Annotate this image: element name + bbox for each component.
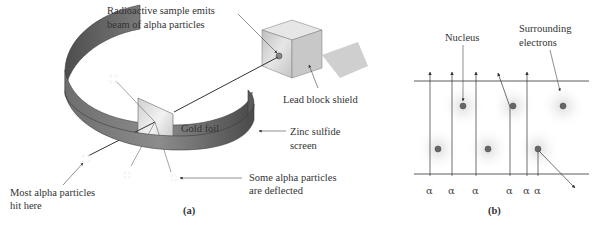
leader-electrons [550,50,560,91]
nucleus [435,146,441,152]
caption-b: (b) [488,205,501,217]
nucleus [460,103,466,109]
label-electrons-line2: electrons [519,37,557,48]
rutherford-diagram: Radioactive sample emits beam of alpha p… [0,0,609,226]
label-screen-line2: screen [290,140,318,151]
alpha-beam [174,57,278,112]
nucleus [535,146,541,152]
scintillation-flash-mid [121,169,133,181]
panel-b: Nucleus Surrounding electrons α α α α α … [414,23,589,217]
panel-a: Radioactive sample emits beam of alpha p… [10,5,368,217]
scintillation-flash-deflected [168,172,180,184]
nucleus [485,146,491,152]
leader-most [63,163,83,185]
caption-a: (a) [183,205,196,217]
alpha-label: α [472,185,479,196]
label-deflected-line2: are deflected [249,185,304,196]
label-most-line1: Most alpha particles [10,187,95,198]
label-deflected-line1: Some alpha particles [249,172,336,183]
label-source-line2: beam of alpha particles [107,19,205,30]
alpha-label: α [523,185,530,196]
alpha-label: α [448,185,455,196]
scintillation-flash-top [106,72,120,86]
label-source-line1: Radioactive sample emits [107,5,215,16]
alpha-label: α [426,185,433,196]
deflected-path-1 [114,79,155,122]
alpha-label: α [506,185,513,196]
lead-block-shadow [322,42,368,78]
label-nucleus: Nucleus [445,32,479,43]
nucleus [560,103,566,109]
label-gold-foil: Gold foil [181,123,219,134]
nucleus [510,103,516,109]
label-electrons-line1: Surrounding [519,23,572,34]
label-screen-line1: Zinc sulfide [290,126,341,137]
label-most-line2: hit here [10,200,42,211]
alpha-label: α [534,185,541,196]
label-shield: Lead block shield [283,94,358,105]
